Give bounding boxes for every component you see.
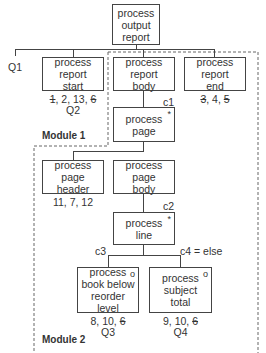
q2-label: Q2 <box>42 104 104 116</box>
process-line-box: process line * <box>113 212 175 245</box>
process-report-end-box: process report end <box>184 57 246 91</box>
connector <box>143 244 144 255</box>
box-label: process line <box>126 217 163 241</box>
box-label: process output report <box>118 7 155 43</box>
connector <box>73 151 144 152</box>
module-1-label: Module 1 <box>42 130 85 142</box>
process-page-body-box: process page body <box>113 160 175 194</box>
process-report-start-box: process report start <box>42 57 104 91</box>
condition-c1: c1 <box>163 96 174 108</box>
q1-label: Q1 <box>8 61 22 73</box>
condition-c4: c4 = else <box>180 245 222 257</box>
box-label: process page <box>126 113 163 137</box>
box-label: process page body <box>126 159 163 195</box>
box-label: process report body <box>126 56 163 92</box>
process-report-body-box: process report body <box>113 57 175 91</box>
connector <box>15 49 16 56</box>
box-label: process report start <box>55 56 92 92</box>
connector <box>108 255 181 256</box>
condition-c3: c3 <box>95 245 106 257</box>
process-subject-total-box: process subject total o <box>149 267 212 313</box>
box-label: process book below reorder level <box>81 266 134 314</box>
op: 4 <box>212 93 218 105</box>
process-page-box: process page * <box>113 107 175 142</box>
connector <box>143 194 144 212</box>
process-book-below-reorder-box: process book below reorder level o <box>77 267 139 313</box>
q3-label: Q3 <box>77 326 139 338</box>
iteration-marker-icon: * <box>167 110 171 119</box>
iteration-marker-icon: * <box>167 215 171 224</box>
condition-c2: c2 <box>163 200 174 212</box>
page-header-ops: 11, 7, 12 <box>42 196 104 208</box>
selection-marker-icon: o <box>203 270 208 279</box>
q4-label: Q4 <box>149 326 212 338</box>
box-label: process page header <box>55 159 92 195</box>
op: 3 <box>200 93 206 105</box>
connector <box>15 49 215 50</box>
box-label: process subject total <box>162 272 199 308</box>
process-page-header-box: process page header <box>42 160 104 194</box>
selection-marker-icon: o <box>130 270 135 279</box>
report-end-ops: 3, 4, 5 <box>184 93 246 105</box>
connector <box>143 90 144 107</box>
box-label: process report end <box>197 56 234 92</box>
op: 5 <box>224 93 230 105</box>
process-output-report-box: process output report <box>112 4 160 45</box>
module-2-label: Module 2 <box>42 334 85 346</box>
